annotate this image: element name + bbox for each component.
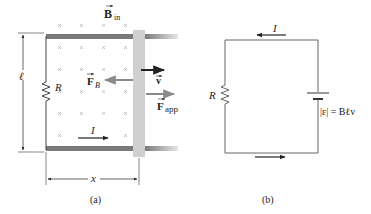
svg-text:v: v — [156, 75, 161, 86]
top-rail — [46, 34, 134, 39]
caption-a: (a) — [90, 194, 101, 206]
circuit-wire — [221, 40, 318, 153]
sliding-bar — [133, 30, 145, 157]
figure-a: B in R ℓ F B v F app I x (a) — [18, 6, 178, 206]
top-rail-extension — [145, 34, 178, 39]
svg-text:B: B — [104, 7, 112, 21]
resistor-label-b: R — [208, 89, 216, 101]
velocity-label: v — [156, 75, 162, 86]
current-label-b: I — [272, 22, 278, 34]
figure-b: I R |ε| = Bℓv (b) — [208, 22, 355, 206]
svg-text:F: F — [87, 75, 94, 87]
bottom-rail-extension — [145, 146, 178, 151]
caption-b: (b) — [262, 194, 274, 206]
svg-text:B: B — [95, 81, 100, 90]
svg-text:app: app — [165, 104, 178, 114]
diagram-canvas: B in R ℓ F B v F app I x (a) I R |ε| = B… — [0, 0, 371, 214]
svg-text:F: F — [157, 100, 164, 112]
force-app-label: F app — [157, 99, 178, 114]
field-label: B in — [104, 6, 120, 22]
left-wire — [42, 36, 50, 150]
svg-text:in: in — [114, 13, 120, 22]
emf-label: |ε| = Bℓv — [320, 106, 355, 117]
current-label-a: I — [90, 124, 96, 136]
distance-label: x — [90, 172, 96, 184]
resistor-label-a: R — [54, 81, 62, 93]
force-b-label: F B — [87, 74, 100, 90]
bottom-rail — [46, 146, 134, 151]
length-label: ℓ — [19, 70, 24, 82]
